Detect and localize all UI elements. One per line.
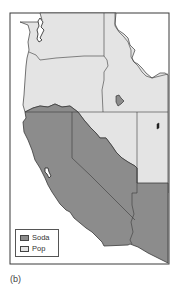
pop-swatch-icon [20, 246, 29, 252]
legend: Soda Pop [15, 229, 59, 257]
figure-caption: (b) [10, 274, 21, 284]
utah-lake-icon [157, 123, 159, 129]
soda-swatch-icon [20, 235, 29, 241]
legend-item-pop: Pop [20, 244, 45, 253]
legend-label-soda: Soda [32, 233, 50, 242]
legend-label-pop: Pop [32, 244, 45, 253]
legend-item-soda: Soda [20, 233, 50, 242]
